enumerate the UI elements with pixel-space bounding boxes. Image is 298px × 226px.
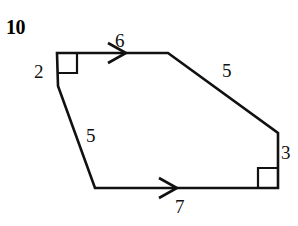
geometry-figure: 10 2 6 5 3 7 5 [0,0,298,226]
side-label-left: 2 [34,62,44,81]
problem-number: 10 [6,17,25,37]
hexagon-drawing [0,0,298,226]
side-label-top: 6 [115,31,125,50]
bottom-right-right-angle-icon [258,168,278,188]
side-label-bottom: 7 [175,197,185,216]
top-left-right-angle-icon [57,53,77,73]
hexagon-outline [57,53,278,188]
side-label-lower-left: 5 [86,126,96,145]
side-label-right: 3 [281,143,291,162]
side-label-upper-right: 5 [222,61,232,80]
